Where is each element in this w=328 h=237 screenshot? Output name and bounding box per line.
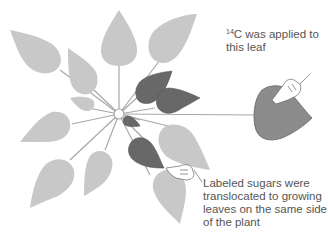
isotope-superscript: 14 <box>226 28 234 35</box>
annotation-translocated: Labeled sugars were translocated to grow… <box>203 177 328 229</box>
leaf <box>10 30 61 73</box>
leaf <box>70 97 94 111</box>
leaf <box>101 10 137 66</box>
annotation-applied-line2: this leaf <box>226 41 266 53</box>
annotation-translocated-line1: Labeled sugars were <box>203 177 328 190</box>
labeled-leaf <box>128 138 164 168</box>
leaf <box>84 151 112 196</box>
labeled-leaf <box>123 116 140 127</box>
annotation-translocated-line3: leaves on the same side <box>203 203 328 216</box>
isotope-symbol: C <box>234 28 242 40</box>
leaf <box>20 112 70 142</box>
stem-center <box>114 109 124 119</box>
annotation-translocated-line4: of the plant <box>203 216 328 229</box>
annotation-applied: 14C was applied tothis leaf <box>226 28 328 54</box>
labeled-leaf <box>156 88 200 113</box>
annotation-applied-line1: was applied to <box>242 28 319 40</box>
leaf <box>149 14 197 63</box>
leaf <box>68 48 98 94</box>
leaf <box>30 159 74 208</box>
leaf <box>159 124 211 170</box>
annotation-translocated-line2: translocated to growing <box>203 190 328 203</box>
unlabeled-leaves <box>10 10 210 224</box>
